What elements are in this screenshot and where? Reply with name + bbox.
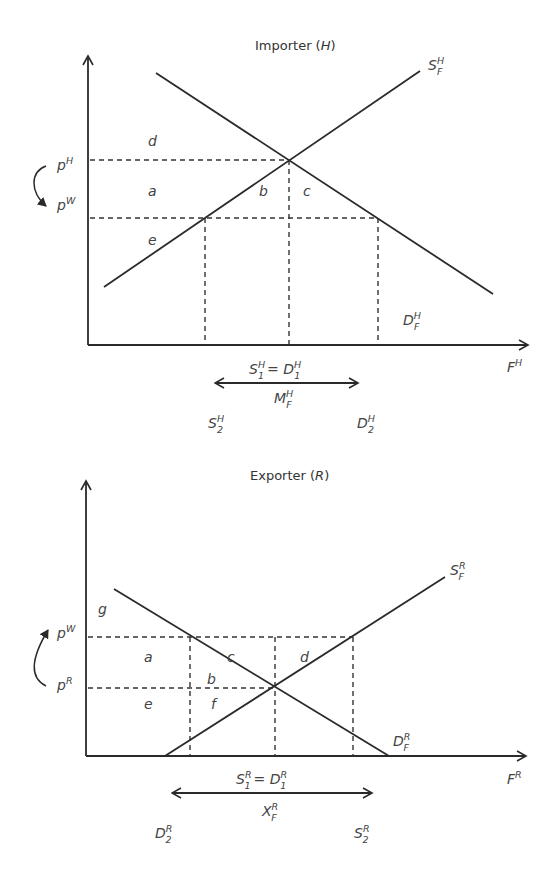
importer-d2-label: DH2 — [357, 413, 375, 435]
exporter-area-g: g — [98, 601, 107, 617]
exporter-pw-label: pW — [56, 623, 76, 641]
exporter-price-change-arrow-icon — [34, 630, 48, 686]
exporter-equilibrium-label: SR1= DR1 — [236, 769, 287, 791]
importer-area-e: e — [148, 232, 157, 248]
exporter-chart: Exporter (R) SRF DRF FR pW pR g a c d b … — [34, 468, 526, 845]
exporter-area-e: e — [144, 696, 153, 712]
importer-area-a: a — [148, 183, 157, 199]
importer-x-axis-label: FH — [507, 357, 522, 375]
exporter-pr-label: pR — [56, 675, 73, 693]
importer-imports-label: MHF — [274, 388, 293, 410]
importer-supply-label: SHF — [428, 55, 444, 77]
importer-demand-curve — [156, 73, 493, 294]
importer-price-change-arrow-icon — [34, 166, 46, 206]
exporter-area-a: a — [144, 649, 153, 665]
exporter-supply-curve — [165, 577, 445, 756]
exporter-demand-curve — [114, 589, 389, 756]
exporter-area-f: f — [211, 696, 218, 712]
importer-pw-label: pW — [56, 195, 76, 213]
importer-equilibrium-label: SH1= DH1 — [249, 359, 301, 381]
importer-area-c: c — [303, 183, 311, 199]
exporter-s2-label: SR2 — [354, 823, 370, 845]
trade-diagram: Importer (H) SHF DHF FH pH pW d a b c e … — [0, 0, 559, 874]
importer-chart: Importer (H) SHF DHF FH pH pW d a b c e … — [34, 38, 528, 435]
exporter-area-c: c — [227, 649, 235, 665]
exporter-title: Exporter (R) — [250, 468, 329, 483]
exporter-area-b: b — [207, 671, 216, 687]
importer-demand-label: DHF — [403, 310, 421, 332]
importer-area-d: d — [148, 133, 157, 149]
importer-area-b: b — [259, 183, 268, 199]
importer-title: Importer (H) — [255, 38, 336, 53]
importer-s2-label: SH2 — [208, 413, 224, 435]
exporter-demand-label: DRF — [393, 731, 410, 753]
exporter-exports-label: XRF — [261, 801, 278, 823]
importer-supply-curve — [104, 71, 420, 287]
exporter-area-d: d — [300, 649, 309, 665]
exporter-supply-label: SRF — [450, 560, 466, 582]
exporter-d2-label: DR2 — [155, 823, 172, 845]
importer-ph-label: pH — [56, 155, 73, 173]
exporter-x-axis-label: FR — [507, 769, 522, 787]
